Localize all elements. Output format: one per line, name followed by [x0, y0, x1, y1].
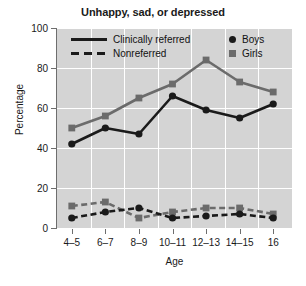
legend-item-clinically-referred: Clinically referred [71, 32, 190, 46]
chart-title: Unhappy, sad, or depressed [0, 6, 306, 18]
data-point-square-marker [68, 125, 75, 132]
x-axis-tick [139, 229, 140, 234]
data-point-square-marker [270, 89, 277, 96]
legend-markers: Boys Girls [227, 32, 264, 60]
data-point-square-marker [203, 57, 210, 64]
dashed-line-swatch-icon [71, 52, 107, 55]
data-point-circle-marker [270, 214, 277, 221]
data-point-circle-marker [169, 92, 176, 99]
data-point-circle-marker [68, 214, 75, 221]
x-axis-tick [72, 229, 73, 234]
data-point-square-marker [169, 81, 176, 88]
y-axis-tick-label: 80 [8, 63, 48, 74]
data-point-circle-marker [68, 140, 75, 147]
chart-figure: Unhappy, sad, or depressed Percentage 02… [0, 0, 306, 286]
y-axis-tick-label: 0 [8, 223, 48, 234]
square-marker-icon [229, 50, 236, 57]
legend-item-boys: Boys [227, 32, 264, 46]
data-point-circle-marker [270, 100, 277, 107]
data-point-circle-marker [169, 214, 176, 221]
solid-line-swatch-icon [71, 38, 107, 41]
legend-item-nonreferred: Nonreferred [71, 46, 190, 60]
series-line [72, 96, 273, 144]
plot-area: Clinically referred Nonreferred Boys Gir… [57, 28, 292, 228]
x-axis-tick [105, 229, 106, 234]
x-axis-tick-label: 16 [247, 237, 299, 248]
y-axis-tick [51, 148, 56, 149]
data-point-circle-marker [202, 212, 209, 219]
data-point-square-marker [102, 199, 109, 206]
circle-marker-icon [229, 36, 236, 43]
x-axis-tick [240, 229, 241, 234]
x-axis-tick [173, 229, 174, 234]
data-point-square-marker [236, 79, 243, 86]
legend-item-girls: Girls [227, 46, 264, 60]
data-point-square-marker [68, 203, 75, 210]
y-axis-tick [51, 108, 56, 109]
data-point-square-marker [136, 95, 143, 102]
data-point-circle-marker [236, 114, 243, 121]
data-point-circle-marker [102, 208, 109, 215]
data-point-square-marker [236, 205, 243, 212]
data-point-square-marker [102, 113, 109, 120]
data-point-square-marker [169, 209, 176, 216]
data-point-circle-marker [135, 204, 142, 211]
y-axis-tick-label: 60 [8, 103, 48, 114]
y-axis-tick-label: 20 [8, 183, 48, 194]
legend-label-girls: Girls [242, 48, 263, 59]
legend-label-clinically-referred: Clinically referred [113, 34, 190, 45]
y-axis-tick [51, 68, 56, 69]
y-axis-tick-label: 100 [8, 23, 48, 34]
x-axis-tick [206, 229, 207, 234]
y-axis-tick [51, 188, 56, 189]
legend-label-nonreferred: Nonreferred [113, 48, 166, 59]
legend-label-boys: Boys [242, 34, 264, 45]
x-axis-title: Age [57, 256, 292, 267]
data-point-circle-marker [236, 210, 243, 217]
y-axis-tick-label: 40 [8, 143, 48, 154]
data-point-circle-marker [135, 130, 142, 137]
data-point-square-marker [136, 215, 143, 222]
legend-lines: Clinically referred Nonreferred [71, 32, 190, 60]
data-point-circle-marker [102, 124, 109, 131]
data-point-square-marker [203, 205, 210, 212]
y-axis-tick [51, 28, 56, 29]
data-point-circle-marker [202, 106, 209, 113]
x-axis-tick [273, 229, 274, 234]
y-axis-tick [51, 228, 56, 229]
